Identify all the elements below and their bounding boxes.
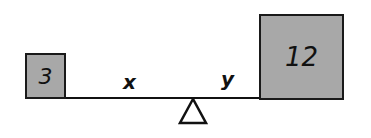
right-weight-label: 12: [285, 42, 318, 72]
left-distance-label: x: [123, 70, 136, 94]
left-weight-box: 3: [25, 53, 66, 99]
fulcrum-triangle-icon: [178, 98, 208, 126]
left-weight-label: 3: [39, 64, 53, 89]
right-distance-label: y: [221, 67, 234, 91]
right-weight-box: 12: [259, 14, 344, 100]
